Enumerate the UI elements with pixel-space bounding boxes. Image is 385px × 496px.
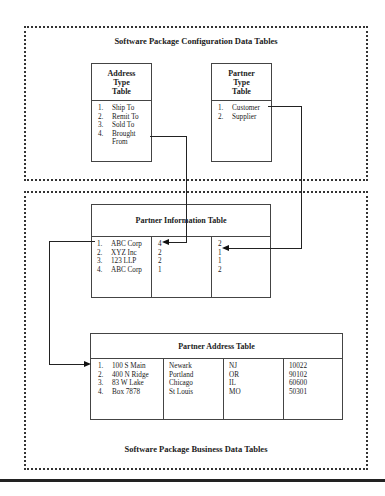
cell: 2 xyxy=(218,266,222,275)
cell: Newark xyxy=(169,362,193,371)
zip-column: 10022 90102 60600 50301 xyxy=(289,362,307,396)
cell: OR xyxy=(229,371,241,380)
list-item: 1.Ship To xyxy=(98,104,139,113)
cell: IL xyxy=(229,379,241,388)
header-line: Type xyxy=(113,78,130,87)
partner-information-table-header: Partner Information Table xyxy=(92,205,270,237)
header-line: Table xyxy=(232,87,251,96)
partner-address-table: Partner Address Table 1.100 S Main 2.400… xyxy=(90,333,343,420)
cell: Chicago xyxy=(169,379,193,388)
cell: MO xyxy=(229,388,241,397)
list-item: 2.400 N Ridge xyxy=(98,371,149,380)
partner-type-table-header: Partner Type Table xyxy=(212,64,271,101)
connector-address-type xyxy=(150,136,187,137)
partner-address-table-header: Partner Address Table xyxy=(91,334,342,359)
column-divider xyxy=(211,236,212,297)
cell: 1 xyxy=(158,266,162,275)
config-section-frame xyxy=(24,26,368,181)
cell: 60600 xyxy=(289,379,307,388)
connector-partner-type xyxy=(228,248,302,249)
list-item: 3.Sold To xyxy=(98,121,139,130)
cell: 50301 xyxy=(289,388,307,397)
cell: NJ xyxy=(229,362,241,371)
column-divider xyxy=(283,358,284,419)
list-item: 3.83 W Lake xyxy=(98,379,149,388)
business-section-title: Software Package Business Data Tables xyxy=(24,444,368,454)
list-item: 4.Brought xyxy=(98,130,139,139)
partner-type-table: Partner Type Table 1.Customer 2.Supplier xyxy=(211,63,272,162)
state-column: NJ OR IL MO xyxy=(229,362,241,396)
partner-type-rows: 1.Customer 2.Supplier xyxy=(218,104,260,121)
cell: St Louis xyxy=(169,388,193,397)
cell: 1 xyxy=(218,257,222,266)
address-type-table-header: Address Type Table xyxy=(92,64,151,101)
list-item: From xyxy=(98,138,139,147)
header-line: Table xyxy=(112,87,131,96)
connector-partner-address xyxy=(49,241,50,365)
arrow-head-icon xyxy=(222,245,229,251)
list-item: 3.123 LLP xyxy=(97,257,142,266)
street-column: 1.100 S Main 2.400 N Ridge 3.83 W Lake 4… xyxy=(98,362,149,396)
column-divider xyxy=(223,358,224,419)
list-item: 4.Box 7878 xyxy=(98,388,149,397)
connector-partner-type xyxy=(301,106,302,249)
list-item: 1.Customer xyxy=(218,104,260,113)
list-item: 1.100 S Main xyxy=(98,362,149,371)
header-line: Address xyxy=(108,69,136,78)
header-line: Partner xyxy=(228,69,255,78)
address-type-rows: 1.Ship To 2.Remit To 3.Sold To 4.Brought… xyxy=(98,104,139,147)
config-section-title: Software Package Configuration Data Tabl… xyxy=(24,36,368,46)
city-column: Newark Portland Chicago St Louis xyxy=(169,362,193,396)
list-item: 1.ABC Corp xyxy=(97,240,142,249)
cell: Portland xyxy=(169,371,193,380)
partner-information-table: Partner Information Table 1.ABC Corp 2.X… xyxy=(91,204,271,298)
cell: 2 xyxy=(158,249,162,258)
address-type-ids: 4 2 2 1 xyxy=(158,240,162,274)
column-divider xyxy=(163,358,164,419)
list-item: 2.Supplier xyxy=(218,113,260,122)
bottom-rule xyxy=(0,479,385,482)
connector-partner-address xyxy=(49,241,95,242)
column-divider xyxy=(151,236,152,297)
connector-address-type xyxy=(167,242,187,243)
list-item: 2.XYZ Inc xyxy=(97,249,142,258)
partner-names: 1.ABC Corp 2.XYZ Inc 3.123 LLP 4.ABC Cor… xyxy=(97,240,142,274)
list-item: 4.ABC Corp xyxy=(97,266,142,275)
arrow-head-icon xyxy=(162,239,169,245)
cell: 10022 xyxy=(289,362,307,371)
connector-address-type xyxy=(186,136,187,243)
cell: 90102 xyxy=(289,371,307,380)
header-line: Type xyxy=(233,78,250,87)
list-item: 2.Remit To xyxy=(98,113,139,122)
cell: 2 xyxy=(158,257,162,266)
connector-partner-address xyxy=(49,364,85,365)
address-type-table: Address Type Table 1.Ship To 2.Remit To … xyxy=(91,63,152,162)
arrow-head-icon xyxy=(84,361,91,367)
connector-partner-type xyxy=(268,106,302,107)
